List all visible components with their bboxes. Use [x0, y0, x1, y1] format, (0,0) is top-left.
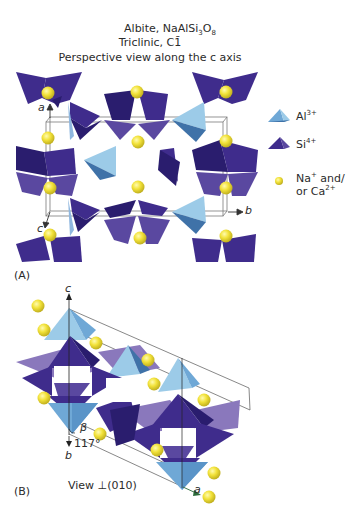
legend-si-ion: Si — [296, 138, 306, 151]
legend-cation: Na+ and/ or Ca2+ — [296, 172, 345, 198]
legend-si: Si4+ — [296, 138, 316, 151]
axis-c-label-panel-b: c — [65, 282, 71, 295]
axis-b-label-panel-a: b — [245, 204, 252, 217]
legend-ca-ion: or Ca — [296, 185, 325, 198]
legend-na-ion: Na — [296, 172, 311, 185]
crystal-structure-diagram — [0, 0, 357, 505]
legend-icons — [268, 109, 290, 185]
view-caption-b: View ⊥(010) — [68, 479, 137, 492]
panel-b-label: (B) — [14, 485, 30, 498]
legend-al-charge: 3+ — [307, 109, 317, 117]
beta-symbol: β — [80, 421, 87, 434]
legend-ca-charge: 2+ — [325, 184, 335, 192]
legend-si-charge: 4+ — [306, 137, 316, 145]
panel-a-label: (A) — [14, 269, 30, 282]
legend-al: Al3+ — [296, 110, 317, 123]
unit-cell-b — [69, 309, 250, 487]
panel-a-structure — [16, 72, 258, 262]
legend-al-ion: Al — [296, 110, 307, 123]
axis-b-label-panel-b: b — [65, 449, 72, 462]
legend-and-text: and/ — [317, 172, 345, 185]
beta-angle: 117° — [74, 437, 101, 450]
axis-a-label-panel-b: a — [194, 483, 201, 496]
axis-a-label-panel-a: a — [38, 101, 45, 114]
panel-b-structure — [16, 293, 250, 504]
axis-c-label-panel-a: c — [37, 222, 43, 235]
